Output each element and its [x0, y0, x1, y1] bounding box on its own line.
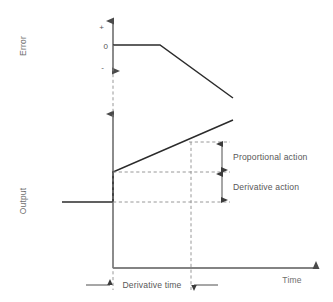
error-tick-zero: 0 — [104, 42, 109, 51]
error-signal-curve — [113, 45, 233, 98]
error-tick-plus: + — [99, 23, 104, 32]
error-tick-minus: - — [101, 63, 104, 72]
time-axis-label: Time — [282, 275, 301, 285]
output-signal-curve — [113, 120, 233, 202]
diagram-canvas: + 0 - Error Output Time — [0, 0, 333, 302]
proportional-action-label: Proportional action — [233, 152, 308, 162]
derivative-action-label: Derivative action — [233, 182, 299, 192]
derivative-time-label: Derivative time — [122, 280, 181, 290]
pid-derivative-diagram: + 0 - Error Output Time — [0, 0, 333, 302]
output-axis-label: Output — [18, 187, 28, 214]
error-axis-label: Error — [18, 36, 28, 56]
